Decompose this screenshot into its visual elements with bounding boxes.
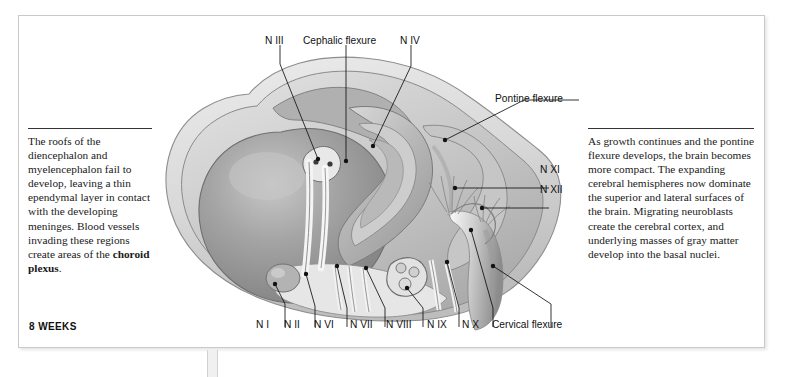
label-n12: N XII bbox=[540, 184, 563, 195]
stage-caption: 8 WEEKS bbox=[29, 321, 77, 332]
note-right-rule bbox=[588, 128, 754, 129]
label-cephalic-flexure: Cephalic flexure bbox=[303, 35, 376, 46]
olfactory-bulb bbox=[266, 264, 300, 292]
olfactory-bulb-highlight bbox=[271, 268, 285, 278]
note-left-body: The roofs of the diencephalon and myelen… bbox=[28, 135, 150, 260]
label-n10: N X bbox=[462, 319, 479, 330]
note-left: The roofs of the diencephalon and myelen… bbox=[28, 128, 152, 275]
panel-bottom-tab bbox=[207, 350, 218, 377]
label-n6: N VI bbox=[314, 319, 334, 330]
note-right-text: As growth continues and the pontine flex… bbox=[588, 134, 754, 261]
label-n4: N IV bbox=[400, 35, 420, 46]
note-left-tail: . bbox=[59, 262, 62, 274]
label-pontine-flexure: Pontine flexure bbox=[495, 93, 563, 104]
label-n11: N XI bbox=[540, 164, 560, 175]
hemisphere-highlight bbox=[229, 152, 305, 200]
label-n9: N IX bbox=[427, 319, 447, 330]
label-n3: N III bbox=[265, 35, 284, 46]
flexure-marker-b bbox=[327, 161, 332, 166]
note-left-text: The roofs of the diencephalon and myelen… bbox=[28, 134, 152, 275]
label-cervical-flexure: Cervical flexure bbox=[492, 319, 562, 330]
note-left-rule bbox=[28, 128, 152, 129]
label-n2: N II bbox=[284, 319, 300, 330]
label-n8: N VIII bbox=[386, 319, 411, 330]
figure-root: N III Cephalic flexure N IV Pontine flex… bbox=[0, 0, 790, 377]
note-right: As growth continues and the pontine flex… bbox=[588, 128, 754, 261]
label-n1: N I bbox=[256, 319, 269, 330]
label-n7: N VII bbox=[350, 319, 373, 330]
otic-vesicle-coil bbox=[387, 258, 427, 297]
